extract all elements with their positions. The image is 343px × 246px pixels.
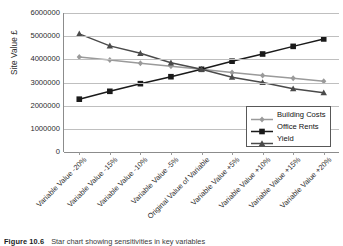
y-tick-label: 4000000 — [6, 55, 60, 63]
legend-marker-triangle-icon — [250, 134, 274, 143]
legend-item-yield[interactable]: Yield — [250, 134, 326, 143]
data-point-marker — [291, 75, 296, 81]
legend-marker-square-icon — [250, 122, 274, 131]
figure-caption: Figure 10.6Star chart showing sensitivit… — [4, 237, 343, 246]
gridline — [64, 83, 339, 84]
data-point-marker — [76, 96, 82, 102]
data-point-marker — [107, 89, 113, 95]
x-tick-label: Variable Value +15% — [247, 155, 302, 210]
series-yield — [76, 31, 327, 96]
legend-marker-diamond-icon — [250, 110, 274, 119]
data-point-marker — [260, 73, 265, 79]
y-tick-label: 6000000 — [6, 9, 60, 17]
series-line — [79, 34, 323, 93]
y-tick-label: 5000000 — [6, 32, 60, 40]
legend-label: Yield — [277, 135, 294, 143]
y-tick-label: 0 — [6, 148, 60, 156]
y-tick-label: 1000000 — [6, 125, 60, 133]
gridline — [64, 36, 339, 37]
legend-item-office-rents[interactable]: Office Rents — [250, 122, 326, 131]
y-tick-label: 3000000 — [6, 79, 60, 87]
data-point-marker — [290, 44, 296, 50]
gridline — [64, 13, 339, 14]
caption-text: Star chart showing sensitivities in key … — [51, 237, 205, 246]
legend-label: Building Costs — [277, 111, 326, 119]
legend-item-building-costs[interactable]: Building Costs — [250, 110, 326, 119]
caption-number: Figure 10.6 — [4, 237, 44, 246]
y-tick-label: 2000000 — [6, 102, 60, 110]
data-point-marker — [168, 74, 174, 80]
y-axis-tick-labels: 6000000500000040000003000000200000010000… — [6, 0, 60, 245]
legend-label: Office Rents — [277, 123, 319, 131]
data-point-marker — [260, 51, 266, 57]
x-axis-tick-labels: Variable Value -20%Variable Value -15%Va… — [63, 152, 338, 242]
data-point-marker — [138, 60, 143, 66]
gridline — [64, 59, 339, 60]
chart-legend[interactable]: Building CostsOffice RentsYield — [246, 106, 331, 147]
